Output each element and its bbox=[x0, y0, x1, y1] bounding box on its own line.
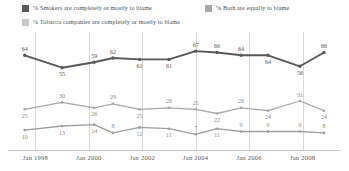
data-point-label: 25 bbox=[137, 113, 143, 119]
data-point bbox=[168, 127, 171, 130]
data-point bbox=[61, 101, 64, 104]
legend-item-tobacco: % Tobacco companies are completely or mo… bbox=[22, 18, 180, 26]
data-point-label: 25 bbox=[22, 113, 28, 119]
data-point-label: 13 bbox=[59, 130, 65, 136]
data-point bbox=[93, 61, 96, 64]
data-point-label: 62 bbox=[110, 49, 116, 55]
data-point bbox=[194, 133, 197, 136]
data-point bbox=[138, 108, 141, 111]
data-point-label: 29 bbox=[110, 94, 116, 100]
data-point-label: 26 bbox=[166, 98, 172, 104]
data-point bbox=[112, 103, 115, 106]
data-point bbox=[23, 108, 26, 111]
legend-item-smokers: % Smokers are completely or mostly to bl… bbox=[22, 4, 152, 12]
data-point-label: 26 bbox=[238, 98, 244, 104]
data-point bbox=[267, 130, 270, 133]
legend-label-both: % Both are equally to blame bbox=[216, 4, 289, 12]
data-point bbox=[93, 107, 96, 110]
data-point-label: 26 bbox=[91, 111, 97, 117]
data-point-label: 67 bbox=[193, 42, 199, 48]
legend-label-smokers: % Smokers are completely or mostly to bl… bbox=[33, 4, 152, 12]
data-point-label: 8 bbox=[323, 123, 326, 129]
data-point bbox=[323, 132, 326, 135]
data-point bbox=[240, 107, 243, 110]
data-point-label: 9 bbox=[266, 122, 269, 128]
legend-label-tobacco: % Tobacco companies are completely or mo… bbox=[33, 18, 180, 26]
data-point-label: 55 bbox=[59, 71, 65, 77]
data-point-label: 7 bbox=[194, 125, 197, 131]
data-point bbox=[61, 125, 64, 128]
data-point bbox=[323, 109, 326, 112]
data-point-label: 25 bbox=[193, 100, 199, 106]
chart-container: % Smokers are completely or mostly to bl… bbox=[0, 0, 349, 171]
data-point-label: 24 bbox=[321, 114, 327, 120]
series-line bbox=[25, 125, 324, 135]
x-axis-labels: Jan 1998Jan 2000Jan 2002Jan 2004Jan 2006… bbox=[0, 152, 349, 171]
data-point bbox=[298, 65, 301, 68]
data-point-label: 31 bbox=[297, 92, 303, 98]
data-point bbox=[93, 123, 96, 126]
plot-area: 6455596261616766646456662530262925262522… bbox=[0, 32, 349, 150]
data-point-label: 14 bbox=[91, 128, 97, 134]
data-point bbox=[138, 126, 141, 129]
x-tick-label: Jan 2000 bbox=[76, 154, 101, 161]
data-point-label: 11 bbox=[166, 132, 172, 138]
data-point bbox=[23, 129, 26, 132]
data-point-label: 11 bbox=[214, 132, 220, 138]
x-tick-label: Jan 2002 bbox=[130, 154, 155, 161]
data-point bbox=[266, 54, 269, 57]
x-tick-label: Jan 1998 bbox=[23, 154, 48, 161]
data-point bbox=[112, 132, 115, 135]
data-point-label: 66 bbox=[214, 43, 220, 49]
data-point bbox=[111, 56, 114, 59]
x-tick-label: Jan 2006 bbox=[236, 154, 261, 161]
legend-item-both: % Both are equally to blame bbox=[205, 4, 289, 12]
legend-swatch-both bbox=[205, 5, 212, 12]
data-point-label: 9 bbox=[298, 122, 301, 128]
data-point-label: 12 bbox=[137, 131, 143, 137]
data-point-label: 8 bbox=[111, 123, 114, 129]
series-line bbox=[25, 51, 324, 68]
data-point-label: 30 bbox=[59, 93, 65, 99]
x-axis-line bbox=[8, 150, 341, 151]
data-point bbox=[240, 130, 243, 133]
legend-swatch-tobacco bbox=[22, 19, 29, 26]
data-point bbox=[216, 127, 219, 130]
data-point-label: 66 bbox=[321, 43, 327, 49]
data-point bbox=[60, 66, 63, 69]
data-point bbox=[299, 100, 302, 103]
data-point bbox=[216, 112, 219, 115]
data-point bbox=[299, 130, 302, 133]
data-point bbox=[194, 108, 197, 111]
data-point bbox=[167, 58, 170, 61]
data-point-label: 9 bbox=[240, 122, 243, 128]
x-tick-label: Jan 2008 bbox=[290, 154, 315, 161]
data-point-label: 64 bbox=[22, 46, 28, 52]
data-point-label: 64 bbox=[265, 59, 271, 65]
data-point bbox=[168, 107, 171, 110]
data-point bbox=[267, 109, 270, 112]
data-point bbox=[215, 51, 218, 54]
series-line bbox=[25, 101, 324, 114]
data-point-label: 56 bbox=[297, 70, 303, 76]
data-point bbox=[138, 58, 141, 61]
data-point-label: 61 bbox=[166, 63, 172, 69]
data-point bbox=[23, 54, 26, 57]
legend-swatch-smokers bbox=[22, 5, 29, 12]
data-point bbox=[194, 49, 197, 52]
data-point-label: 61 bbox=[137, 63, 143, 69]
data-point-label: 24 bbox=[265, 114, 271, 120]
x-tick-label: Jan 2004 bbox=[183, 154, 208, 161]
data-point-label: 64 bbox=[238, 46, 244, 52]
data-point-label: 10 bbox=[22, 134, 28, 140]
chart-legend: % Smokers are completely or mostly to bl… bbox=[0, 0, 349, 32]
data-point-label: 59 bbox=[91, 53, 97, 59]
data-point-label: 22 bbox=[214, 117, 220, 123]
data-point bbox=[239, 54, 242, 57]
data-point bbox=[322, 51, 325, 54]
